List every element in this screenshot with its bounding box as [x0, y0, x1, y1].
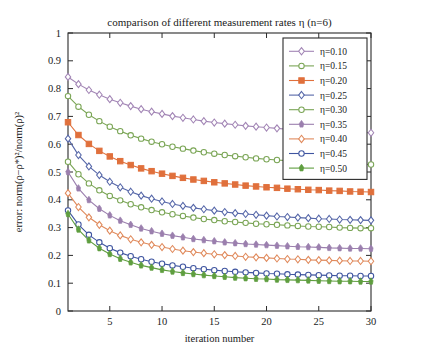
marker-circle [149, 207, 154, 212]
marker-diamond [274, 213, 279, 220]
marker-diamond [274, 125, 279, 132]
marker-diamond [86, 86, 91, 93]
marker-diamond [232, 252, 237, 259]
marker-star-body [254, 275, 258, 281]
marker-star-body [275, 242, 279, 248]
marker-diamond [347, 257, 352, 264]
marker-star-body [358, 245, 362, 251]
marker-circle [243, 155, 248, 160]
marker-square [295, 187, 300, 192]
marker-star-body [306, 243, 310, 249]
marker-diamond [159, 110, 164, 117]
marker-star-body [254, 241, 258, 247]
y-tick-label: 0.1 [48, 278, 61, 289]
marker-star [244, 274, 248, 280]
marker-star-body [369, 245, 373, 251]
marker-star-body [160, 230, 164, 236]
marker-diamond [180, 202, 185, 209]
marker-diamond [191, 204, 196, 211]
marker-star-body [191, 270, 195, 276]
marker-circle [201, 216, 206, 221]
marker-square [138, 166, 143, 171]
marker-diamond [170, 200, 175, 207]
marker-circle [159, 210, 164, 215]
legend-label: η=0.40 [320, 134, 347, 144]
marker-star [369, 245, 373, 251]
marker-star [87, 196, 91, 202]
marker-square [232, 182, 237, 187]
marker-square [222, 181, 227, 186]
marker-star-body [223, 273, 227, 279]
marker-square [159, 171, 164, 176]
marker-diamond [358, 257, 363, 264]
marker-square [316, 187, 321, 192]
marker-diamond [243, 253, 248, 260]
marker-circle [299, 63, 304, 68]
marker-star [233, 239, 237, 245]
marker-diamond [97, 91, 102, 98]
marker-circle [65, 93, 70, 98]
marker-circle [285, 223, 290, 228]
marker-square [128, 162, 133, 167]
marker-diamond [159, 198, 164, 205]
marker-star-body [212, 272, 216, 278]
marker-diamond [285, 214, 290, 221]
marker-circle [368, 225, 373, 230]
marker-circle [264, 222, 269, 227]
marker-diamond [316, 257, 321, 264]
marker-circle [191, 148, 196, 153]
marker-star-body [181, 234, 185, 240]
marker-diamond [128, 236, 133, 243]
marker-circle [347, 225, 352, 230]
marker-circle [170, 144, 175, 149]
legend-label: η=0.45 [320, 149, 347, 159]
marker-square [243, 183, 248, 188]
marker-square [347, 189, 352, 194]
marker-diamond [107, 178, 112, 185]
marker-diamond [118, 232, 123, 239]
marker-diamond [118, 184, 123, 191]
marker-star [317, 244, 321, 250]
marker-star-body [275, 276, 279, 282]
marker-star [233, 274, 237, 280]
legend[interactable]: η=0.10η=0.15η=0.20η=0.25η=0.30η=0.35η=0.… [283, 38, 367, 179]
y-tick-label: 0.4 [48, 194, 62, 205]
marker-star-body [150, 227, 154, 233]
marker-star [160, 230, 164, 236]
marker-star-body [296, 243, 300, 249]
marker-star-body [327, 244, 331, 250]
marker-diamond [326, 257, 331, 264]
marker-star [118, 255, 122, 261]
marker-circle [316, 224, 321, 229]
marker-diamond [170, 113, 175, 120]
marker-diamond [347, 216, 352, 223]
marker-star [244, 240, 248, 246]
marker-diamond [222, 209, 227, 216]
marker-star [150, 227, 154, 233]
marker-circle [306, 224, 311, 229]
marker-diamond [107, 227, 112, 234]
marker-square [274, 185, 279, 190]
y-tick-label: 0.8 [48, 83, 61, 94]
marker-circle [358, 225, 363, 230]
marker-star [191, 235, 195, 241]
marker-circle [295, 223, 300, 228]
marker-star [108, 250, 112, 256]
marker-star [181, 234, 185, 240]
marker-star [296, 243, 300, 249]
marker-diamond [138, 192, 143, 199]
chart-title: comparison of different measurement rate… [107, 16, 332, 29]
marker-circle [128, 202, 133, 207]
marker-star-body [285, 242, 289, 248]
marker-star-body [264, 241, 268, 247]
marker-diamond [295, 214, 300, 221]
marker-star [170, 232, 174, 238]
marker-square [149, 168, 154, 173]
marker-square [299, 78, 304, 83]
y-tick-label: 0.3 [48, 222, 61, 233]
marker-circle [299, 151, 304, 156]
y-tick-label: 0.7 [48, 111, 61, 122]
marker-circle [253, 221, 258, 226]
marker-diamond [326, 215, 331, 222]
marker-square [191, 177, 196, 182]
